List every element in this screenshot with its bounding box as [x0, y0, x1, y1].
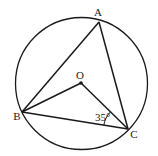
angle-label: 35° [95, 111, 110, 123]
label-c: C [130, 128, 137, 140]
label-b: B [13, 110, 20, 122]
circle-diagram: A B C O 35° [0, 0, 158, 156]
segment-ab [22, 22, 99, 112]
segment-ob [22, 83, 81, 112]
segment-bc [22, 112, 128, 129]
label-o: O [76, 69, 84, 81]
label-a: A [94, 6, 102, 18]
center-point [79, 81, 83, 85]
